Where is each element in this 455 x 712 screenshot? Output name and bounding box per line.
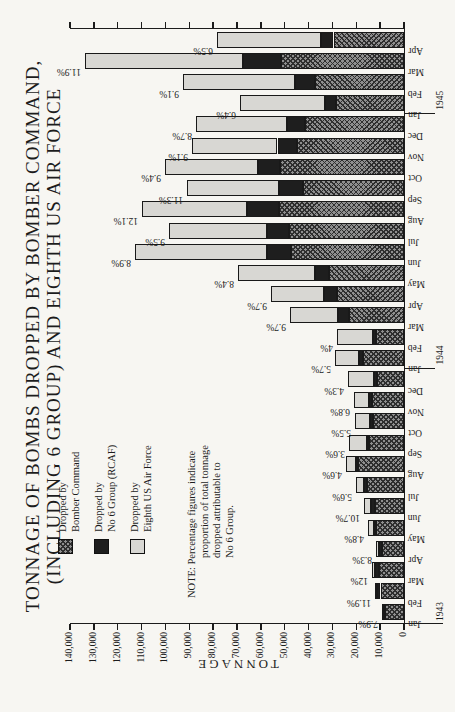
bar-segment-no6-group: [324, 286, 337, 302]
pct-label: 9.7%: [266, 321, 286, 332]
bar-segment-eighth-af: [354, 392, 369, 408]
pct-label: 8.9%: [111, 257, 131, 268]
y-axis-tick: [308, 624, 309, 630]
month-label: Jul: [408, 491, 419, 502]
bar-segment-no6-group: [315, 265, 329, 281]
bar-segment-bomber-command: [373, 413, 404, 429]
y-axis-tick: [165, 624, 166, 630]
bar-segment-bomber-command: [349, 307, 404, 323]
month-label: Apr: [408, 45, 423, 56]
bar-segment-eighth-af: [364, 498, 370, 514]
month-label: Sep: [408, 194, 422, 205]
right-scale-tick: [141, 22, 142, 28]
y-tick-label: 50,000: [279, 632, 290, 678]
pct-label: 4.3%: [325, 385, 345, 396]
bar-segment-bomber-command: [280, 159, 404, 175]
legend-item-no6-group: Dropped by No 6 Group (RCAF): [93, 445, 118, 554]
y-axis-title: TONNAGE: [195, 656, 279, 672]
month-label: Feb: [408, 88, 422, 99]
y-axis-tick: [141, 624, 142, 630]
bar-segment-no6-group: [247, 201, 279, 217]
right-scale-tick: [403, 22, 404, 28]
y-tick-label: 10,000: [374, 632, 385, 678]
year-label: 1943: [435, 602, 445, 621]
y-tick-label: 110,000: [136, 632, 147, 678]
y-axis-tick: [69, 624, 70, 630]
month-label: Mar: [408, 575, 424, 586]
bar-segment-eighth-af: [290, 307, 338, 323]
right-scale-tick: [93, 22, 94, 28]
legend-item-bomber-command: Dropped by Bomber Command: [57, 445, 82, 554]
pct-label: 9.4%: [141, 172, 161, 183]
bar-segment-eighth-af: [85, 53, 242, 69]
bar-segment-eighth-af: [346, 456, 356, 472]
year-label: 1944: [435, 345, 445, 364]
bar-segment-no6-group: [367, 435, 369, 451]
legend-text-line: Bomber Command: [70, 452, 83, 532]
bar-segment-no6-group: [279, 180, 304, 196]
legend-label: Dropped by No 6 Group (RCAF): [93, 445, 118, 532]
bar-segment-no6-group: [375, 562, 379, 578]
bar-segment-no6-group: [370, 413, 373, 429]
bar-segment-bomber-command: [376, 329, 404, 345]
bar-segment-eighth-af: [196, 116, 287, 132]
bar-segment-eighth-af: [217, 32, 321, 48]
month-label: Aug: [408, 215, 424, 226]
bar-segment-no6-group: [359, 350, 363, 366]
note-line: proportion of total tonnage: [199, 445, 212, 598]
bar-segment-eighth-af: [169, 223, 266, 239]
bar-segment-no6-group: [371, 498, 375, 514]
bar-segment-no6-group: [267, 223, 289, 239]
y-tick-label: 0: [398, 632, 409, 678]
bar-segment-bomber-command: [279, 201, 404, 217]
month-label: Mar: [408, 321, 424, 332]
y-axis-tick: [93, 624, 94, 630]
gray-swatch-icon: [130, 539, 145, 554]
right-scale-tick: [356, 22, 357, 28]
right-scale-tick: [308, 22, 309, 28]
y-axis-line: [70, 623, 443, 624]
note-line: NOTE: Percentage figures indicate: [186, 445, 199, 598]
bar-segment-bomber-command: [297, 138, 404, 154]
bar-segment-bomber-command: [379, 562, 404, 578]
pct-label: 7.9%: [358, 618, 378, 629]
bar-segment-no6-group: [321, 32, 333, 48]
bar-segment-eighth-af: [142, 201, 247, 217]
bar-segment-bomber-command: [334, 32, 404, 48]
pct-label: 4.6%: [322, 469, 342, 480]
bar-segment-bomber-command: [336, 95, 404, 111]
right-scale-tick: [189, 22, 190, 28]
bar-segment-bomber-command: [303, 180, 404, 196]
bar-segment-eighth-af: [376, 541, 380, 557]
month-label: Dec: [408, 130, 423, 141]
pct-label: 8.3%: [352, 554, 372, 565]
legend: Dropped by Bomber Command Dropped by No …: [57, 445, 165, 554]
pct-label: 9.7%: [247, 300, 267, 311]
pct-label: 8.7%: [172, 130, 192, 141]
plot-area: 010,00020,00030,00040,00050,00060,00070,…: [0, 0, 455, 712]
bar-segment-eighth-af: [183, 74, 295, 90]
month-label: Jun: [408, 512, 421, 523]
bar-segment-no6-group: [267, 244, 291, 260]
pct-label: 12.1%: [113, 215, 138, 226]
y-axis-tick: [403, 624, 404, 630]
month-label: Dec: [408, 385, 423, 396]
bar-segment-eighth-af: [382, 604, 384, 620]
right-scale-tick: [284, 22, 285, 28]
bar-segment-bomber-command: [372, 392, 404, 408]
bar-segment-eighth-af: [356, 477, 364, 493]
right-scale-tick: [260, 22, 261, 28]
bar-segment-no6-group: [287, 116, 305, 132]
right-scale-tick: [212, 22, 213, 28]
bar-segment-eighth-af: [372, 562, 376, 578]
y-tick-label: 20,000: [350, 632, 361, 678]
pct-label: 11.9%: [347, 597, 371, 608]
legend-label: Dropped by Eighth US Air Force: [129, 445, 154, 532]
bar-segment-no6-group: [364, 477, 367, 493]
legend-text-line: Dropped by: [57, 452, 70, 532]
year-label: 1945: [435, 91, 445, 110]
note-block: NOTE: Percentage figures indicate propor…: [186, 445, 236, 598]
y-tick-label: 140,000: [64, 632, 75, 678]
y-tick-label: 40,000: [303, 632, 314, 678]
bar-segment-no6-group: [243, 53, 281, 69]
